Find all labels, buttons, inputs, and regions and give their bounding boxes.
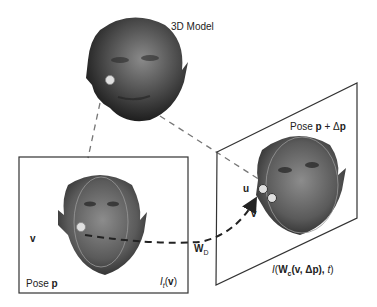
projection-line-right	[160, 116, 260, 180]
right-pose-label: Pose p + Δp	[290, 121, 346, 132]
right-face	[256, 136, 346, 235]
left-point-v	[77, 223, 86, 232]
right-point-v	[268, 194, 277, 203]
left-face	[58, 175, 147, 275]
model-label: 3D Model	[171, 21, 214, 32]
right-point-u	[259, 185, 268, 194]
3d-model-face	[86, 18, 188, 122]
warp-label: WD	[194, 243, 209, 256]
left-pose-label: Pose p	[26, 278, 58, 289]
model-point	[106, 76, 115, 85]
left-image-label: It(v)	[160, 276, 177, 289]
right-point-u-label: u	[243, 183, 249, 194]
projection-line-left	[88, 103, 100, 158]
right-point-v-label: v	[251, 208, 257, 219]
left-point-v-label: v	[30, 233, 36, 244]
diagram-canvas	[0, 0, 377, 307]
right-image-label: I(Wc(v, Δp), t)	[272, 264, 334, 277]
